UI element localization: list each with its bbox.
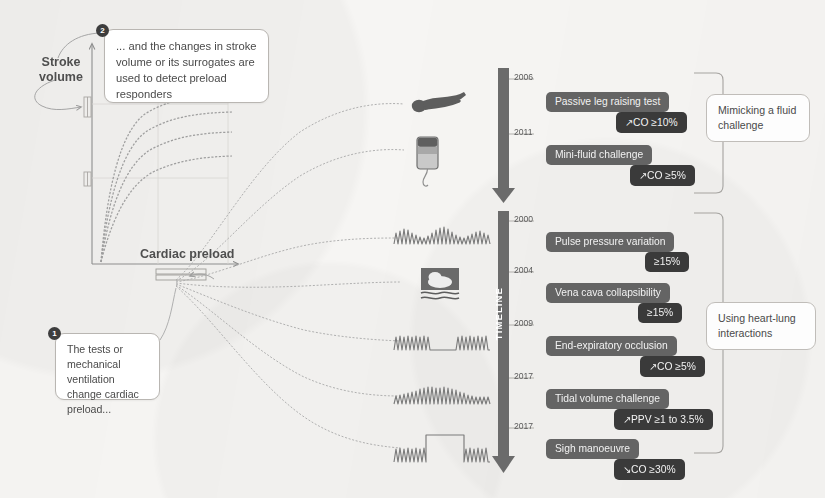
callout-stroke-volume: ... and the changes in stroke volume or …: [104, 29, 269, 103]
test-value-end-expiratory-occlusion: ↗CO ≥5%: [640, 356, 705, 377]
test-name-pulse-pressure-variation: Pulse pressure variation: [546, 232, 674, 252]
person-leg-raise-icon: [412, 92, 466, 112]
group-label-heart-lung: Using heart-lung interactions: [706, 302, 816, 350]
test-name-passive-leg-raising: Passive leg raising test: [546, 92, 669, 112]
figure-canvas: Stroke volume Cardiac preload 2 ... and …: [0, 0, 825, 498]
test-value-passive-leg-raising: ↗CO ≥10%: [616, 112, 687, 133]
test-value-mini-fluid-challenge: ↗CO ≥5%: [630, 165, 695, 186]
year-2017-tidal: 2017: [514, 371, 533, 381]
callout-preload: The tests or mechanical ventilation chan…: [55, 333, 160, 400]
stroke-volume-marker-lower: [84, 172, 91, 186]
x-axis-label: Cardiac preload: [140, 247, 234, 261]
timeline-ticks-upper: [509, 79, 534, 134]
y-axis-label-line2: volume: [39, 70, 83, 84]
year-2017-sigh: 2017: [514, 421, 533, 431]
year-2006: 2006: [514, 72, 533, 82]
test-value-sigh-manoeuvre: ↘CO ≥30%: [614, 459, 685, 480]
test-name-end-expiratory-occlusion: End-expiratory occlusion: [546, 336, 677, 356]
year-2009: 2009: [514, 318, 533, 328]
timeline-arrow-upper: [492, 68, 515, 203]
y-axis-label: Stroke volume: [33, 55, 89, 85]
callout1-leader: [160, 288, 176, 340]
test-value-tidal-volume-challenge: ↗PPV ≥1 to 3.5%: [614, 409, 713, 430]
gridlines: [92, 96, 228, 264]
arterial-waveform-icon: [394, 227, 490, 244]
test-name-sigh-manoeuvre: Sigh manoeuvre: [546, 439, 639, 459]
iv-fluid-bag-icon: [417, 137, 438, 186]
test-name-tidal-volume-challenge: Tidal volume challenge: [546, 389, 669, 409]
tidal-volume-waveform-icon: [394, 387, 490, 404]
test-name-vena-cava-collapsibility: Vena cava collapsibility: [546, 283, 670, 303]
occlusion-waveform-icon: [394, 336, 490, 350]
callout-badge-2: 2: [96, 24, 109, 37]
connector-fan: [176, 104, 404, 448]
group-label-fluid-challenge: Mimicking a fluid challenge: [706, 94, 810, 142]
callout-badge-1: 1: [48, 327, 61, 340]
timeline-arrow-lower: [492, 211, 515, 473]
test-value-vena-cava-collapsibility: ≥15%: [638, 303, 682, 323]
year-2000: 2000: [514, 214, 533, 224]
test-value-pulse-pressure-variation: ≥15%: [645, 252, 689, 272]
stroke-volume-marker-upper: [84, 97, 91, 117]
sigh-waveform-icon: [394, 435, 490, 462]
timeline-label: TIMELINE: [493, 287, 507, 340]
year-2011: 2011: [514, 127, 532, 137]
test-name-mini-fluid-challenge: Mini-fluid challenge: [546, 145, 652, 165]
y-axis-label-line1: Stroke: [42, 55, 81, 69]
ultrasound-image-icon: [421, 268, 459, 299]
year-2004: 2004: [514, 265, 533, 275]
